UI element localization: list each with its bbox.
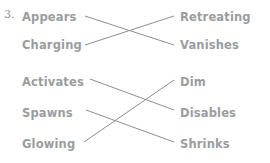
match-item-left-0-1[interactable]: Charging [22, 39, 82, 51]
match-item-right-1-0[interactable]: Dim [180, 76, 206, 88]
connection-line-1-2[interactable] [84, 80, 174, 142]
connection-line-0-1[interactable] [85, 16, 174, 45]
match-item-right-0-0[interactable]: Retreating [180, 11, 251, 23]
connection-line-1-1[interactable] [86, 110, 174, 142]
match-item-right-1-1[interactable]: Disables [180, 107, 236, 119]
match-item-left-1-1[interactable]: Spawns [22, 107, 73, 119]
connection-line-1-0[interactable] [90, 79, 174, 110]
match-item-left-1-2[interactable]: Glowing [22, 138, 75, 150]
match-item-left-1-0[interactable]: Activates [22, 76, 84, 88]
match-item-right-0-1[interactable]: Vanishes [180, 39, 239, 51]
match-item-right-1-2[interactable]: Shrinks [180, 138, 230, 150]
connection-line-0-0[interactable] [85, 16, 174, 45]
match-item-left-0-0[interactable]: Appears [22, 11, 77, 23]
matching-exercise: 3. AppearsChargingRetreatingVanishesActi… [0, 0, 270, 163]
question-number: 3. [4, 8, 15, 21]
